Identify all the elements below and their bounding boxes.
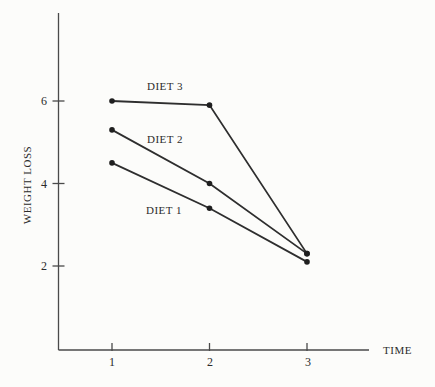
- weight-loss-line-chart: WEIGHT LOSS TIME 6 4 2 1 2 3 DIET 3 DIET…: [0, 0, 435, 387]
- x-axis-label: TIME: [383, 343, 412, 357]
- data-point-diet-1-t1: [109, 160, 115, 166]
- data-point-diet-2-t1: [109, 127, 115, 133]
- x-tick-label-3: 3: [305, 355, 311, 369]
- series-label-diet-2: DIET 2: [147, 132, 183, 146]
- x-tick-label-1: 1: [109, 355, 115, 369]
- series-line-diet-2: [112, 130, 307, 254]
- series-line-diet-1: [112, 163, 307, 262]
- data-point-diet-3-t1: [109, 98, 115, 104]
- data-point-diet-3-t2: [207, 102, 213, 108]
- data-point-diet-1-t2: [207, 205, 213, 211]
- data-point-diet-1-t3: [304, 259, 310, 265]
- y-tick-label-4: 4: [29, 177, 47, 191]
- x-tick-label-2: 2: [207, 355, 213, 369]
- y-tick-label-6: 6: [29, 94, 47, 108]
- series-label-diet-3: DIET 3: [147, 79, 183, 93]
- data-point-diet-2-t2: [207, 181, 213, 187]
- series-label-diet-1: DIET 1: [146, 203, 182, 217]
- data-point-diet-3-t3: [304, 251, 310, 257]
- y-tick-label-2: 2: [29, 259, 47, 273]
- chart-canvas: [0, 0, 435, 387]
